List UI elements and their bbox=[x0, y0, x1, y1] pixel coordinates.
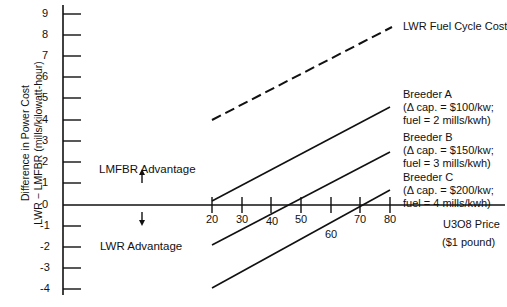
breeder-a-fuel: fuel = 2 mills/kwh) bbox=[403, 114, 494, 127]
x-tick-label: 20 bbox=[206, 213, 218, 226]
breeder-a-title: Breeder A bbox=[403, 88, 494, 101]
breeder-b-label: Breeder B (Δ cap. = $150/kw; fuel = 3 mi… bbox=[403, 131, 494, 170]
x-tick-label: 80 bbox=[384, 213, 396, 226]
y-tick-label: 9 bbox=[42, 7, 48, 20]
y-tick-label: 8 bbox=[42, 28, 48, 41]
lwr-fuel-cycle-label: LWR Fuel Cycle Cost bbox=[403, 20, 507, 33]
breeder-a-line bbox=[212, 107, 390, 201]
x-axis-title: U3O8 Price bbox=[443, 218, 500, 231]
y-axis-title-line2: LWR − LMFBR (mills/kilowatt-hour) bbox=[32, 53, 45, 233]
breeder-c-label: Breeder C (Δ cap. = $200/kw; fuel = 4 mi… bbox=[403, 171, 494, 210]
down-arrow-icon bbox=[139, 212, 145, 226]
breeder-c-title: Breeder C bbox=[403, 171, 494, 184]
breeder-b-fuel: fuel = 3 mills/kwh) bbox=[403, 157, 494, 170]
x-tick-label: 30 bbox=[236, 213, 248, 226]
y-tick-label: -2 bbox=[40, 240, 50, 253]
lmfbr-advantage-label: LMFBR Advantage bbox=[99, 163, 196, 176]
y-axis-title-line1: Difference in Power Cost bbox=[19, 53, 32, 233]
y-tick-label: -4 bbox=[40, 282, 50, 295]
y-axis-title: Difference in Power Cost LWR − LMFBR (mi… bbox=[19, 53, 45, 233]
breeder-a-cap: (Δ cap. = $100/kw; bbox=[403, 101, 494, 114]
x-tick-label: 40 bbox=[266, 215, 278, 228]
breeder-b-title: Breeder B bbox=[403, 131, 494, 144]
lwr-advantage-label: LWR Advantage bbox=[100, 240, 182, 253]
breeder-b-line bbox=[212, 152, 390, 245]
y-ticks bbox=[63, 14, 81, 289]
x-axis-unit: ($1 pound) bbox=[442, 236, 495, 249]
lwr-fuel-cycle-cost-line bbox=[212, 27, 392, 120]
breeder-c-cap: (Δ cap. = $200/kw; bbox=[403, 184, 494, 197]
breeder-c-fuel: fuel = 4 mills/kwh) bbox=[403, 197, 494, 210]
breeder-b-cap: (Δ cap. = $150/kw; bbox=[403, 144, 494, 157]
x-tick-label: 60 bbox=[325, 228, 337, 241]
breeder-a-label: Breeder A (Δ cap. = $100/kw; fuel = 2 mi… bbox=[403, 88, 494, 127]
y-tick-label: -3 bbox=[40, 261, 50, 274]
x-tick-label: 50 bbox=[295, 213, 307, 226]
x-tick-label: 70 bbox=[354, 213, 366, 226]
